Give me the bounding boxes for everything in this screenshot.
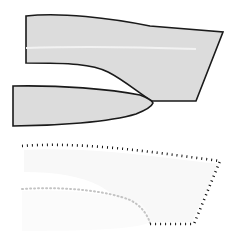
diagram-root <box>0 0 238 242</box>
diagram-canvas <box>0 0 238 242</box>
